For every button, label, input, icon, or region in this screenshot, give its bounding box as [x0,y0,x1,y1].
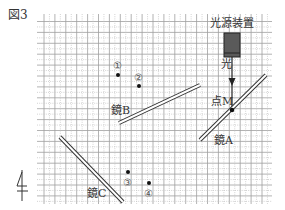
point-2-label: ② [134,73,143,83]
north-arrow-icon [17,170,28,201]
point-2-dot [137,84,141,88]
mirror-c-label: 鏡C [87,188,106,199]
point-1-label: ① [113,61,122,71]
figure-canvas [0,0,285,210]
figure-title: 図3 [8,9,28,21]
mirror-b-label: 鏡B [111,105,130,116]
point-m-dot [230,108,235,113]
mirror-a-label: 鏡A [214,135,233,146]
light-label: 光 [221,59,232,70]
point-3-label: ③ [123,178,132,188]
point-4-label: ④ [144,189,153,199]
point-1-dot [116,73,120,77]
light-source-device [224,33,240,57]
light-source-label: 光源装置 [210,18,254,29]
point-3-dot [126,170,130,174]
point-4-dot [147,181,151,185]
point-m-label: 点M [211,96,233,107]
